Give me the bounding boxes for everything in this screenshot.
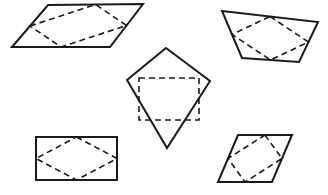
shape-group-bottom-left-rectangle: [36, 137, 117, 180]
inner-midpoint-quadrilateral-top-right: [232, 17, 309, 61]
shape-group-top-left-parallelogram: [12, 4, 143, 47]
outer-quadrilateral-top-right: [222, 11, 318, 62]
shape-group-top-right-trapezoid: [222, 11, 318, 62]
outer-quadrilateral-bottom-left: [36, 137, 117, 180]
shape-group-center-kite: [127, 48, 210, 148]
shape-group-bottom-right-rhombus: [218, 135, 292, 182]
figure-canvas: [0, 0, 328, 195]
inner-midpoint-quadrilateral-top-left: [30, 5, 127, 48]
geometry-figure: [0, 0, 328, 195]
inner-midpoint-quadrilateral-bottom-right: [228, 135, 282, 182]
inner-midpoint-quadrilateral-bottom-left: [36, 137, 117, 180]
